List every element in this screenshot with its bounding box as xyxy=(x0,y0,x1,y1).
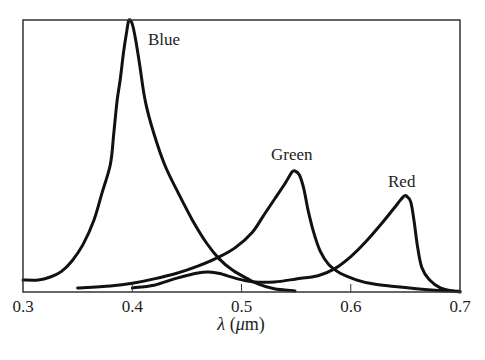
plot-frame xyxy=(23,20,460,292)
red-curve-label: Red xyxy=(388,172,415,192)
red-curve xyxy=(132,195,460,292)
x-tick-label: 0.4 xyxy=(122,297,143,317)
x-axis-ticks xyxy=(132,284,351,292)
green-curve-label: Green xyxy=(271,145,313,165)
blue-curve xyxy=(23,20,295,291)
x-tick-label: 0.6 xyxy=(340,297,361,317)
blue-curve-label: Blue xyxy=(148,30,180,50)
lambda-symbol: λ xyxy=(217,314,225,334)
x-axis-label: λ (μm) xyxy=(217,314,264,335)
mu-symbol: μ xyxy=(236,314,245,334)
unit-rest: m) xyxy=(245,314,265,334)
curves-group xyxy=(23,20,460,292)
x-tick-label: 0.7 xyxy=(449,297,470,317)
x-tick-label: 0.3 xyxy=(12,297,33,317)
unit-paren: ( xyxy=(225,314,236,334)
